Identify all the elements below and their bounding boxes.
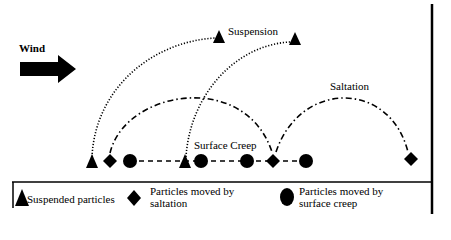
triangle-icon [86,154,98,168]
saltation-path-2 [276,98,408,152]
saltation-label: Saltation [330,80,369,92]
legend-diamond-icon [127,190,141,206]
suspension-label: Suspension [228,25,278,37]
legend-saltation-line2: saltation [150,197,234,209]
triangle-icon [179,154,191,168]
diamond-icon [404,152,418,166]
diamond-icon [266,154,280,168]
triangle-icon [289,32,301,45]
legend-saltation-line1: Particles moved by [150,185,234,197]
legend-creep-line2: surface creep [299,197,383,209]
circle-icon [299,154,313,168]
legend-creep-label: Particles moved by surface creep [299,185,383,209]
legend-saltation-label: Particles moved by saltation [150,185,234,209]
legend-suspended-label: Suspended particles [27,193,115,205]
circle-icon [240,154,254,168]
wind-label: Wind [19,42,45,54]
legend-creep-line1: Particles moved by [299,185,383,197]
circle-icon [194,154,208,168]
diamond-icon [103,154,117,168]
circle-icon [123,154,137,168]
surface-creep-label: Surface Creep [194,139,257,151]
wind-arrow-icon [20,55,76,83]
triangle-icon [213,30,225,43]
legend-circle-icon [280,188,294,206]
